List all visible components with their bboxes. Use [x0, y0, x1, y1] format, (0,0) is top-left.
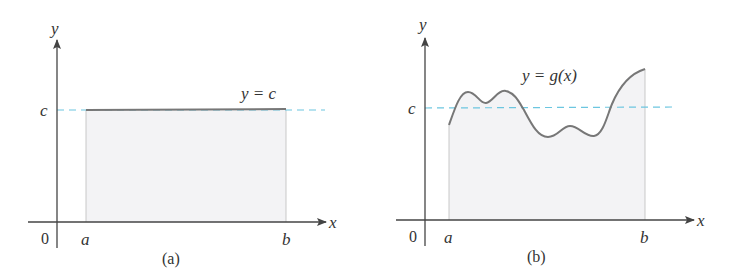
- b-label: b: [282, 230, 291, 249]
- panel-caption: (b): [527, 248, 546, 266]
- a-label: a: [444, 228, 453, 247]
- area-under-g: [449, 69, 645, 220]
- origin-label: 0: [41, 230, 49, 247]
- b-label: b: [640, 228, 649, 247]
- y-axis-label: y: [417, 15, 427, 34]
- origin-label: 0: [409, 228, 417, 245]
- panel-caption: (a): [162, 250, 180, 268]
- curve-label: y = c: [239, 84, 277, 103]
- a-label: a: [81, 230, 90, 249]
- c-label: c: [408, 99, 416, 118]
- figure-canvas: y x 0 a b c y = c (a) y x 0 a b c y = g(…: [0, 0, 729, 279]
- panel-b: y x 0 a b c y = g(x) (b): [396, 15, 705, 266]
- x-axis-label: x: [696, 211, 705, 230]
- c-label: c: [40, 101, 48, 120]
- curve-label: y = g(x): [520, 66, 577, 85]
- constant-curve: [86, 109, 286, 110]
- y-axis-label: y: [49, 19, 59, 38]
- panel-a: y x 0 a b c y = c (a): [28, 19, 337, 268]
- area-under-constant: [86, 110, 286, 222]
- x-axis-label: x: [328, 213, 337, 232]
